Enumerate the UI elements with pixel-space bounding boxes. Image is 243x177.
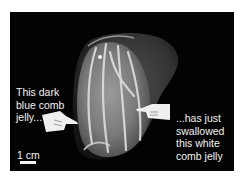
scale-bar-label: 1 cm	[17, 149, 40, 162]
right-annotation-label: ...has just swallowed this white comb je…	[176, 112, 224, 162]
left-annotation-label: This dark blue comb jelly...	[16, 86, 64, 124]
scale-bar	[20, 161, 36, 164]
photo-panel: This dark blue comb jelly... ...has just…	[10, 12, 234, 171]
